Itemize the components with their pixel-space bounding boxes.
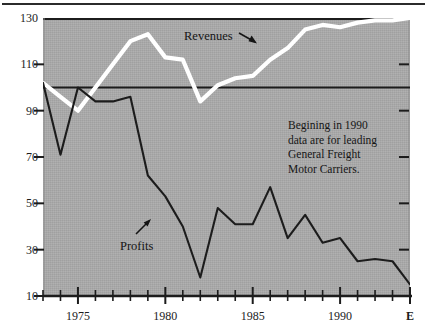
note-line-1: Begining in 1990 xyxy=(288,118,377,133)
revenues-series-label: Revenues xyxy=(184,30,233,43)
chart-note-annotation: Begining in 1990 data are for leading Ge… xyxy=(288,118,377,176)
x-axis-tick-label: 1975 xyxy=(66,310,90,322)
x-axis-tick-label: E xyxy=(406,310,414,322)
note-line-3: General Freight xyxy=(288,147,377,162)
chart-figure: 1301109070503010 1975198019851990E Reven… xyxy=(0,0,427,330)
note-line-4: Motor Carriers. xyxy=(288,162,377,177)
x-axis-tick-label: 1985 xyxy=(241,310,265,322)
x-axis-tick-label: 1990 xyxy=(328,310,352,322)
note-line-2: data are for leading xyxy=(288,133,377,148)
profits-series-label: Profits xyxy=(120,240,153,253)
x-axis-tick-label: 1980 xyxy=(153,310,177,322)
